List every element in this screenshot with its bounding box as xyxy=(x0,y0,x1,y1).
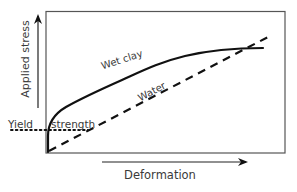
x-axis-label: Deformation xyxy=(124,170,196,182)
plot-frame xyxy=(46,12,285,154)
strength-label: strength xyxy=(51,119,95,130)
y-axis-label: Applied stress xyxy=(20,20,31,97)
yield-label: Yield xyxy=(8,119,33,130)
wet-clay-curve xyxy=(48,48,263,152)
